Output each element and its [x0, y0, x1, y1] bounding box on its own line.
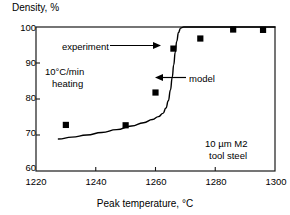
data-point-marker	[63, 122, 69, 128]
data-point-marker	[260, 27, 266, 33]
chart-canvas	[0, 0, 290, 215]
model-curve	[58, 27, 275, 139]
data-point-marker	[230, 26, 236, 32]
data-point-marker	[123, 122, 129, 128]
plot-frame	[36, 27, 275, 171]
data-point-marker	[197, 35, 203, 41]
model-arrow	[155, 74, 186, 81]
density-vs-peak-temperature-chart: Density, % 100 90 80 70 60 1220 1240 126…	[0, 0, 290, 215]
experiment-arrow	[110, 42, 161, 49]
data-point-marker	[152, 89, 158, 95]
data-point-marker	[170, 46, 176, 52]
x-axis-ticks	[96, 167, 216, 171]
